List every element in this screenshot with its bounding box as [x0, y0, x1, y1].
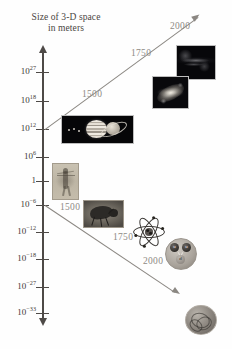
axis-tick — [36, 232, 49, 233]
figure-title: Size of 3-D space in meters — [6, 12, 126, 34]
axis-arrow-up-icon — [39, 45, 47, 53]
axis-arrow-down-icon — [39, 318, 47, 326]
thumbnail-cosmic-web — [176, 45, 216, 80]
axis-tick-label-1e6: 106 — [2, 151, 36, 161]
axis-tick-label-1e-6: 10−6 — [2, 199, 36, 209]
figure-title-line1: Size of 3-D space — [32, 12, 101, 22]
year-label-small-1500: 1500 — [60, 202, 80, 212]
thumbnail-galaxy — [152, 76, 189, 109]
axis-tick — [36, 259, 49, 260]
axis-tick — [36, 72, 49, 73]
axis-tick-label-1e-33: 10−33 — [2, 307, 36, 317]
axis-tick-label-1e-12: 10−12 — [2, 226, 36, 236]
human-leg-right — [67, 186, 71, 196]
axis-tick — [36, 287, 49, 288]
atom-svg — [132, 215, 166, 249]
axis-tick-label-1e12: 1012 — [2, 123, 36, 133]
thumbnail-planets — [61, 115, 134, 144]
flea-leg — [105, 217, 109, 226]
large-scale-ray-arrow-icon — [191, 12, 201, 22]
axis-tick-label-1e-27: 10−27 — [2, 281, 36, 291]
scale-of-universe-figure: Size of 3-D space in meters 1027 1018 10… — [0, 0, 232, 349]
quantum-foam-icon — [185, 305, 217, 335]
quark-down: d — [176, 255, 185, 264]
quark-up-2: u — [182, 243, 191, 252]
axis-tick-label-1e18: 1018 — [2, 95, 36, 105]
year-label-large-2000: 2000 — [170, 21, 190, 31]
vertical-axis — [42, 52, 44, 320]
axis-tick-label-1: 1 — [2, 175, 36, 185]
small-scale-ray-arrow-icon — [172, 287, 182, 296]
year-label-small-1750: 1750 — [113, 232, 133, 242]
year-label-small-2000: 2000 — [143, 256, 163, 266]
figure-title-line2: in meters — [6, 23, 126, 34]
axis-tick-label-1e-18: 10−18 — [2, 253, 36, 263]
axis-tick — [36, 313, 49, 314]
year-label-large-1750: 1750 — [131, 48, 151, 58]
axis-tick — [36, 157, 49, 158]
thumbnail-flea — [83, 200, 124, 228]
human-arms — [57, 175, 75, 177]
thumbnail-human — [52, 163, 79, 200]
moon-dot — [78, 130, 80, 132]
axis-tick — [36, 181, 49, 182]
axis-tick — [36, 101, 49, 102]
quark-up-1: u — [170, 243, 179, 252]
year-label-large-1500: 1500 — [82, 89, 102, 99]
moon-dot — [73, 128, 75, 130]
axis-tick-label-1e27: 1027 — [2, 66, 36, 76]
moon-dot — [68, 129, 70, 131]
atom-icon — [132, 215, 166, 249]
proton-quarks-icon: u u d — [165, 238, 197, 270]
galaxy-disk — [154, 80, 186, 105]
axis-tick — [36, 129, 49, 130]
